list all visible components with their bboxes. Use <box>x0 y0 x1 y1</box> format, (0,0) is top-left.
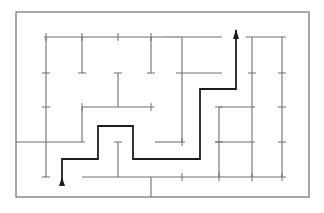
maze-walls <box>16 37 286 197</box>
end-arrow-icon <box>233 29 239 39</box>
maze-canvas <box>0 0 324 213</box>
start-arrow-icon <box>59 177 65 186</box>
maze-outer-border <box>16 12 309 197</box>
maze-diagram <box>0 0 324 213</box>
